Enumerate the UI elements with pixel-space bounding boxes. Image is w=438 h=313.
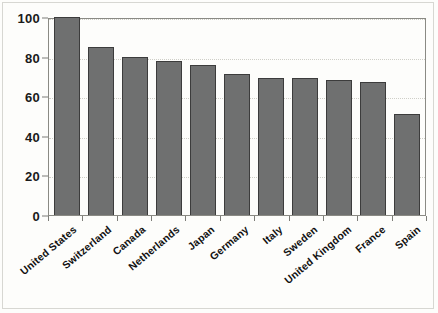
bar-slot xyxy=(356,19,390,215)
y-tick-label: 60 xyxy=(25,90,40,105)
x-tick-mark xyxy=(151,216,152,221)
bar-slot xyxy=(50,19,84,215)
bar-slot xyxy=(288,19,322,215)
y-tick-label: 20 xyxy=(25,169,40,184)
bar-slot xyxy=(322,19,356,215)
x-tick-mark xyxy=(82,216,83,221)
bar-united-states[interactable] xyxy=(54,17,79,215)
y-tick-label: 80 xyxy=(25,50,40,65)
bar-netherlands[interactable] xyxy=(156,61,181,215)
bar-sweden[interactable] xyxy=(292,78,317,215)
bar-switzerland[interactable] xyxy=(88,47,113,215)
x-tick-label-france: France xyxy=(353,223,388,255)
x-tick-mark xyxy=(185,216,186,221)
x-tick-label-spain: Spain xyxy=(392,223,422,251)
bar-slot xyxy=(152,19,186,215)
bar-slot xyxy=(118,19,152,215)
x-tick-mark xyxy=(323,216,324,221)
bar-chart-figure: 020406080100 United StatesSwitzerlandCan… xyxy=(0,0,438,313)
y-tick-label: 40 xyxy=(25,129,40,144)
x-tick-mark xyxy=(357,216,358,221)
y-tick-label: 0 xyxy=(32,209,40,224)
bar-italy[interactable] xyxy=(258,78,283,215)
bar-slot xyxy=(84,19,118,215)
y-tick-label: 100 xyxy=(17,11,40,26)
x-tick-mark xyxy=(48,216,49,221)
bar-slot xyxy=(254,19,288,215)
plot-area xyxy=(48,18,426,216)
bar-slot xyxy=(186,19,220,215)
x-axis: United StatesSwitzerlandCanadaNetherland… xyxy=(48,216,426,311)
x-tick-mark xyxy=(220,216,221,221)
x-tick-label-italy: Italy xyxy=(260,223,285,246)
x-tick-mark xyxy=(392,216,393,221)
bar-canada[interactable] xyxy=(122,57,147,215)
bar-united-kingdom[interactable] xyxy=(326,80,351,215)
bar-slot xyxy=(390,19,424,215)
bar-spain[interactable] xyxy=(394,114,419,215)
x-tick-mark xyxy=(117,216,118,221)
bar-series xyxy=(49,19,425,215)
bar-france[interactable] xyxy=(360,82,385,215)
y-axis: 020406080100 xyxy=(0,18,48,216)
bar-germany[interactable] xyxy=(224,74,249,215)
x-tick-mark xyxy=(426,216,427,221)
bar-japan[interactable] xyxy=(190,65,215,215)
x-tick-mark xyxy=(254,216,255,221)
bar-slot xyxy=(220,19,254,215)
x-tick-mark xyxy=(289,216,290,221)
